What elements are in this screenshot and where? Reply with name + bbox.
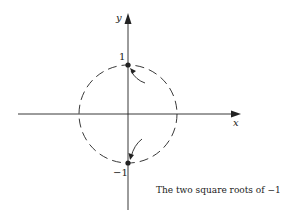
point-minus-i [125, 160, 130, 165]
arrow-to-minus-i [131, 139, 142, 157]
point-i [125, 62, 130, 67]
y-axis-arrowhead-icon [125, 13, 132, 24]
y-axis-label: y [116, 13, 122, 23]
tick-label-1: 1 [119, 52, 125, 62]
tick-label-minus-1: −1 [113, 168, 128, 178]
caption: The two square roots of −1 [156, 186, 281, 195]
x-axis-label: x [233, 118, 239, 128]
arrow-to-minus-i-head-icon [129, 153, 135, 160]
arrow-to-i-head-icon [130, 68, 136, 74]
